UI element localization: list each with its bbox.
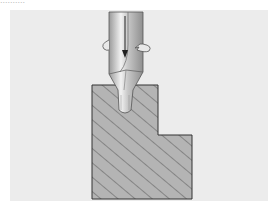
workpiece <box>92 85 192 199</box>
drilling-diagram <box>0 0 275 207</box>
